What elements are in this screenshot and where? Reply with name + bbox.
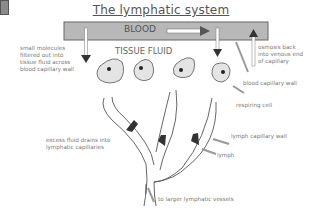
label-larger-vessels: to larger lymphatic vessels <box>158 196 234 203</box>
label-lymph-capillary-wall: lymph capillary wall <box>231 133 287 140</box>
arrow-down-icon <box>213 49 222 57</box>
label-osmosis: osmosis back into venous end of capillar… <box>258 44 303 65</box>
diagram-graphics <box>0 0 322 211</box>
label-excess-fluid: excess fluid drains into lymphatic capil… <box>46 137 110 151</box>
cell <box>173 58 194 78</box>
arrow-down-icon <box>81 55 91 63</box>
label-blood-capillary-wall: blood capillary wall <box>243 80 297 87</box>
label-lymph: lymph <box>217 152 234 159</box>
cell <box>212 63 230 82</box>
label-filtered: small molecules filtered out into tissue… <box>20 45 74 73</box>
blood-label: BLOOD <box>124 26 156 33</box>
label-respiring-cell: respiring cell <box>236 102 272 109</box>
cell <box>134 59 154 80</box>
tissue-fluid-label: TISSUE FLUID <box>115 48 172 55</box>
blood-capillary <box>64 22 268 40</box>
arrow-down-icon <box>191 133 199 145</box>
cell <box>97 59 124 83</box>
